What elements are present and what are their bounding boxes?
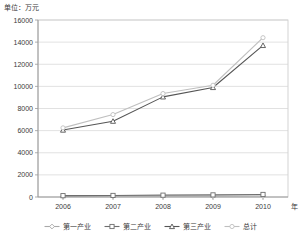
legend-item-3[interactable]: 第三产业 — [164, 222, 211, 231]
data-point-marker-square — [61, 194, 65, 198]
legend-label: 第三产业 — [183, 223, 211, 231]
legend-marker-circle-icon — [224, 222, 240, 231]
y-axis-tick-label: 2000 — [17, 171, 33, 178]
data-point-marker-circle — [61, 126, 65, 130]
data-point-marker-diamond — [49, 224, 54, 229]
legend-marker-square-icon — [104, 222, 120, 231]
x-axis-tick-label: 2009 — [205, 203, 221, 210]
legend-label: 第一产业 — [63, 223, 91, 231]
x-axis-tick-label: 2006 — [55, 203, 71, 210]
y-axis-tick-label: 8000 — [17, 105, 33, 112]
legend-label: 总计 — [243, 223, 257, 231]
legend-item-1[interactable]: 第一产业 — [44, 222, 91, 231]
data-point-marker-circle — [211, 83, 215, 87]
chart-container: 单位：万元 0200040006000800010000120001400016… — [0, 0, 300, 240]
y-axis-tick-label: 0 — [29, 194, 33, 201]
y-axis-tick-label: 14000 — [14, 39, 34, 46]
chart-legend: 第一产业第二产业第三产业总计 — [0, 222, 300, 231]
data-point-marker-square — [109, 224, 113, 228]
data-point-marker-circle — [229, 224, 233, 228]
x-axis-tick-label: 2008 — [155, 203, 171, 210]
y-axis-tick-label: 16000 — [14, 17, 34, 24]
data-point-marker-circle — [261, 36, 265, 40]
data-point-marker-triangle — [169, 224, 174, 229]
legend-marker-diamond-icon — [44, 222, 60, 231]
legend-label: 第二产业 — [123, 223, 151, 231]
y-axis-tick-label: 4000 — [17, 149, 33, 156]
y-axis-tick-label: 12000 — [14, 61, 34, 68]
data-point-marker-circle — [111, 112, 115, 116]
data-point-marker-circle — [161, 91, 165, 95]
data-point-marker-square — [111, 193, 115, 197]
x-axis-tick-label: 2007 — [105, 203, 121, 210]
legend-item-4[interactable]: 总计 — [224, 222, 257, 231]
legend-item-2[interactable]: 第二产业 — [104, 222, 151, 231]
x-axis-title: 年 — [291, 202, 298, 211]
data-point-marker-square — [261, 192, 265, 196]
data-point-marker-square — [161, 193, 165, 197]
chart-plot-area: 0200040006000800010000120001400016000200… — [0, 0, 300, 240]
y-axis-tick-label: 10000 — [14, 83, 34, 90]
y-axis-tick-label: 6000 — [17, 127, 33, 134]
x-axis-tick-label: 2010 — [255, 203, 271, 210]
legend-marker-triangle-icon — [164, 222, 180, 231]
data-point-marker-square — [211, 193, 215, 197]
